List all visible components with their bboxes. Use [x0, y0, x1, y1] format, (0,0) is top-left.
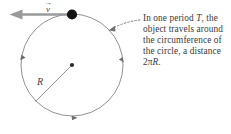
- annotation-line-1-pre: In one period: [143, 13, 196, 23]
- motion-arrowhead-left: [20, 55, 25, 61]
- physics-figure: → v R In one period T, the object travel…: [0, 0, 231, 134]
- motion-arrowhead-right: [119, 57, 124, 63]
- center-dot: [70, 63, 74, 67]
- velocity-vector-arrowhead: [10, 9, 23, 19]
- annotation-leader-line: [113, 20, 140, 28]
- annotation-text: In one period T, the object travels arou…: [143, 13, 229, 68]
- annotation-line-4: circumference of: [157, 35, 222, 45]
- velocity-label: → v: [40, 0, 56, 14]
- annotation-line-6-post: .: [158, 57, 160, 67]
- orbiting-object-dot: [67, 9, 77, 19]
- velocity-symbol: v: [46, 4, 50, 14]
- annotation-line-1-post: ,: [201, 13, 203, 23]
- radius-label: R: [37, 76, 43, 87]
- annotation-line-5: the circle, a: [143, 46, 187, 56]
